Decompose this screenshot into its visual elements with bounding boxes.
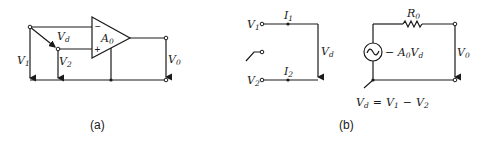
panel-a-caption: (a) bbox=[90, 118, 105, 132]
dependent-source-label: − A0Vd bbox=[385, 46, 423, 60]
v1-terminal bbox=[28, 25, 32, 29]
vd-arrow bbox=[30, 27, 55, 47]
vo-terminal-bottom-b bbox=[453, 78, 457, 82]
resistor-r0 bbox=[403, 21, 422, 27]
v1-label: V1 bbox=[17, 54, 30, 68]
output-ground-symbol bbox=[364, 80, 373, 88]
v1-label-b: V1 bbox=[247, 18, 260, 32]
vo-label: V0 bbox=[168, 53, 181, 67]
circuit-figure: − + A0 V1 V2 Vd V0 (a) bbox=[0, 0, 481, 149]
vd-label: Vd bbox=[57, 30, 70, 44]
vo-terminal-top-b bbox=[453, 22, 457, 26]
vo-terminal-bottom bbox=[164, 78, 168, 82]
vo-label-b: V0 bbox=[457, 46, 470, 60]
r0-label: R0 bbox=[406, 7, 420, 21]
opamp-minus-sign: − bbox=[95, 21, 101, 32]
panel-b-equivalent-circuit: V1 V2 I1 I2 Vd R0 V0 − A0Vd Vd=V1−V2 (b) bbox=[246, 7, 470, 132]
vd-equation: Vd=V1−V2 bbox=[356, 96, 429, 110]
i1-label: I1 bbox=[283, 9, 293, 23]
v2-terminal bbox=[56, 47, 60, 51]
input-ground-symbol bbox=[246, 52, 261, 61]
vo-terminal-top bbox=[164, 36, 168, 40]
i2-label: I2 bbox=[283, 65, 293, 79]
ac-source-icon bbox=[367, 49, 379, 55]
vd-label-b: Vd bbox=[321, 45, 334, 59]
v1-terminal-b bbox=[260, 22, 264, 26]
v2-terminal-b bbox=[260, 78, 264, 82]
opamp-gain-label: A0 bbox=[100, 32, 114, 46]
opamp-plus-sign: + bbox=[95, 44, 101, 55]
panel-b-caption: (b) bbox=[339, 118, 354, 132]
panel-a-opamp-circuit: − + A0 V1 V2 Vd V0 (a) bbox=[17, 17, 181, 132]
ground-terminal-b bbox=[260, 50, 264, 54]
v2-label: V2 bbox=[59, 55, 72, 69]
v2-label-b: V2 bbox=[247, 74, 260, 88]
